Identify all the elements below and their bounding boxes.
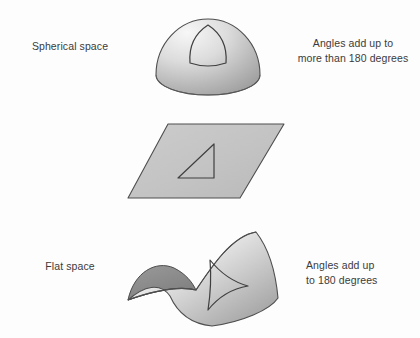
row-hyperbolic-space: Hyperbolic space [0,224,420,336]
label-spherical-space: Spherical space [4,40,136,53]
shape-saddle [120,224,295,336]
annotation-spherical-line1: Angles add up to [313,37,393,49]
shape-plane [120,112,295,224]
geometry-curvature-diagram: Spherical space A [0,0,420,338]
annotation-spherical: Angles add up to more than 180 degrees [288,36,418,65]
plane-surface [128,124,284,198]
row-spherical-space: Spherical space A [0,0,420,112]
row-flat-space: Flat space Angles add up to 180 degrees [0,112,420,224]
dome-surface [156,19,260,95]
annotation-spherical-line2: more than 180 degrees [298,52,409,64]
shape-dome [120,0,295,112]
